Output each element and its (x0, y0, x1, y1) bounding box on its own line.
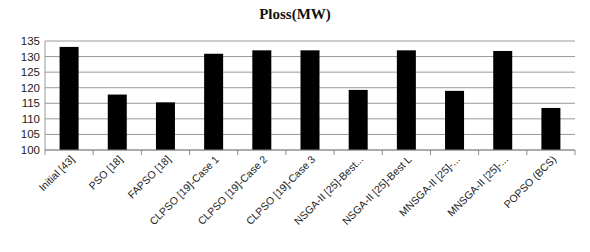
bar (541, 108, 560, 150)
y-tick-label: 105 (21, 128, 40, 140)
bar (445, 91, 464, 150)
bar (493, 51, 512, 150)
y-tick-label: 135 (21, 35, 40, 47)
y-tick-label: 125 (21, 66, 40, 78)
y-tick-label: 120 (21, 82, 40, 94)
y-tick-label: 100 (21, 144, 40, 156)
y-tick-label: 130 (21, 51, 40, 63)
x-axis: Initial [43]PSO [18]FAPSO [18]CLPSO [19]… (36, 150, 575, 227)
bar (156, 102, 175, 150)
bar-chart: 100105110115120125130135 Initial [43]PSO… (0, 0, 590, 252)
bar (108, 95, 127, 150)
y-tick-label: 115 (22, 97, 40, 109)
bar (204, 54, 223, 150)
x-tick-label: PSO [18] (86, 153, 125, 192)
y-axis: 100105110115120125130135 (21, 35, 45, 156)
bar (397, 50, 416, 150)
bar (301, 50, 320, 150)
x-tick-label: FAPSO [18] (125, 153, 173, 201)
y-tick-label: 110 (22, 113, 40, 125)
x-tick-label: Initial [43] (36, 153, 76, 193)
bar (349, 90, 368, 150)
bar (252, 50, 271, 150)
bar (60, 47, 79, 150)
